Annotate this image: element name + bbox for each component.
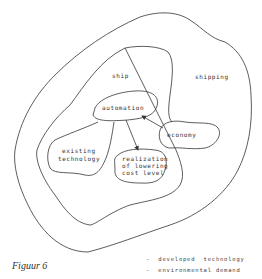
realization-label-line3: cost level [122, 169, 164, 176]
automation-label: automation [102, 104, 144, 111]
diagram-canvas: ship shipping automation existing techno… [0, 0, 262, 279]
existing-technology-label-line2: technology [58, 155, 100, 163]
existing-technology-label-line1: existing [62, 147, 96, 155]
realization-label-line1: realization [122, 155, 168, 162]
shipping-region-boundary [15, 13, 252, 252]
shipping-label: shipping [195, 73, 229, 81]
figure-caption: Figuur 6 [12, 260, 47, 271]
arrow-automation-to-realization [126, 120, 138, 150]
legend-item-environmental-demand: - environmental demand [146, 267, 241, 273]
economy-label: economy [167, 131, 197, 139]
legend-item-developed-technology: - developed technology [146, 256, 245, 262]
ship-region-boundary [37, 46, 183, 225]
ship-label: ship [112, 72, 129, 80]
